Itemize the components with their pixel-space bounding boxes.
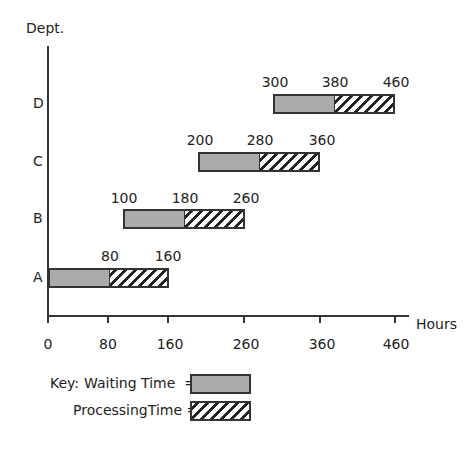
processing-segment [334,96,393,112]
x-tick-label: 0 [44,336,53,352]
bar-value-label: 160 [155,248,182,264]
category-label-b: B [33,210,43,226]
x-tick-label: 80 [99,336,117,352]
x-tick [394,316,396,323]
processing-segment [109,270,167,286]
bar-value-label: 180 [172,190,199,206]
waiting-segment [275,96,334,112]
bar-value-label: 80 [101,248,119,264]
category-label-c: C [33,153,43,169]
category-label-a: A [33,269,43,285]
x-tick [319,316,321,323]
bar-dept-d [273,94,395,114]
x-axis-line [47,315,409,317]
waiting-segment [200,154,259,170]
bar-value-label: 460 [383,74,410,90]
processing-segment [259,154,318,170]
x-tick [107,316,109,323]
processing-segment [184,211,243,227]
waiting-segment [50,270,109,286]
bar-dept-b [123,209,245,229]
bar-value-label: 200 [187,132,214,148]
x-tick [167,316,169,323]
bar-value-label: 300 [262,74,289,90]
legend-label-waiting: Waiting Time = [84,375,196,391]
x-axis-title: Hours [416,316,457,332]
x-tick-label: 360 [309,336,336,352]
x-tick [47,316,49,323]
x-tick-label: 460 [383,336,410,352]
bar-value-label: 380 [322,74,349,90]
legend-swatch-processing [190,401,251,421]
bar-value-label: 260 [233,190,260,206]
legend-title: Key: [50,375,79,391]
legend-label-processing: ProcessingTime = [73,402,198,418]
x-tick-label: 260 [233,336,260,352]
bar-value-label: 360 [309,132,336,148]
x-tick-label: 160 [157,336,184,352]
y-axis-title: Dept. [26,20,64,36]
bar-value-label: 280 [247,132,274,148]
category-label-d: D [33,95,44,111]
bar-value-label: 100 [111,190,138,206]
legend-swatch-waiting [190,374,251,394]
bar-dept-a [48,268,169,288]
x-tick [243,316,245,323]
bar-dept-c [198,152,320,172]
waiting-segment [125,211,184,227]
